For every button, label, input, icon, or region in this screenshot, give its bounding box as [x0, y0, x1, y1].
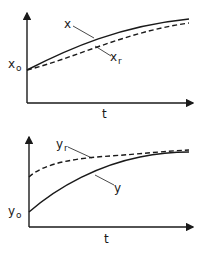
curve-y-r [29, 150, 189, 177]
leader-x [73, 26, 94, 38]
label-t-top: t [102, 107, 107, 121]
leader-x-r [95, 46, 111, 56]
label-y: y [114, 181, 121, 195]
label-t-bottom: t [104, 232, 109, 246]
diagram-canvas: x xr xo t yr y yo t [0, 0, 203, 253]
label-y-r: yr [56, 137, 68, 153]
leader-y [95, 175, 114, 185]
label-y0: yo [8, 204, 22, 220]
top-panel: x xr xo t [8, 13, 193, 121]
label-x0: xo [8, 57, 22, 73]
label-x: x [64, 17, 71, 31]
leader-y-r [68, 147, 92, 158]
bottom-panel: yr y yo t [8, 137, 193, 246]
label-x-r: xr [110, 50, 122, 66]
curve-x-r [27, 23, 189, 70]
